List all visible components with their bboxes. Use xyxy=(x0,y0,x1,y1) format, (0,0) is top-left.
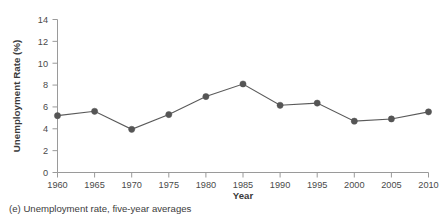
data-point-markers xyxy=(54,81,431,133)
x-axis-ticks xyxy=(58,173,429,178)
x-axis-title: Year xyxy=(233,190,254,201)
y-tick-label: 14 xyxy=(38,15,48,25)
y-axis-tick-labels: 02468101214 xyxy=(38,15,48,178)
y-tick-label: 0 xyxy=(43,168,48,178)
y-axis-ticks xyxy=(53,20,58,173)
data-point-marker xyxy=(92,108,98,114)
data-point-marker xyxy=(277,102,283,108)
data-point-marker xyxy=(54,113,60,119)
figure-unemployment-rate: 02468101214 1960196519701975198019851990… xyxy=(0,0,447,224)
x-tick-label: 1965 xyxy=(84,180,104,190)
y-tick-label: 4 xyxy=(43,124,48,134)
x-tick-label: 2010 xyxy=(418,180,438,190)
data-point-marker xyxy=(314,100,320,106)
y-axis-title: Unemployment Rate (%) xyxy=(11,40,22,153)
y-tick-label: 6 xyxy=(43,102,48,112)
x-tick-label: 1985 xyxy=(233,180,253,190)
x-tick-label: 1970 xyxy=(121,180,141,190)
y-tick-label: 10 xyxy=(38,59,48,69)
data-point-marker xyxy=(166,111,172,117)
y-tick-label: 8 xyxy=(43,80,48,90)
data-series-line xyxy=(58,84,429,129)
data-point-marker xyxy=(388,116,394,122)
x-tick-label: 1980 xyxy=(196,180,216,190)
x-tick-label: 1990 xyxy=(270,180,290,190)
y-tick-label: 2 xyxy=(43,146,48,156)
data-point-marker xyxy=(129,126,135,132)
y-axis: 02468101214 xyxy=(38,15,58,178)
x-tick-label: 1975 xyxy=(159,180,179,190)
line-chart-unemployment-rate: 02468101214 1960196519701975198019851990… xyxy=(0,0,447,224)
x-tick-label: 2005 xyxy=(381,180,401,190)
x-axis: 1960196519701975198019851990199520002005… xyxy=(47,173,438,191)
x-tick-label: 1960 xyxy=(47,180,67,190)
data-point-marker xyxy=(425,109,431,115)
data-point-marker xyxy=(351,118,357,124)
x-tick-label: 1995 xyxy=(307,180,327,190)
data-point-marker xyxy=(240,81,246,87)
data-point-marker xyxy=(203,93,209,99)
figure-caption: (e) Unemployment rate, five-year average… xyxy=(9,203,191,214)
y-tick-label: 12 xyxy=(38,37,48,47)
x-axis-tick-labels: 1960196519701975198019851990199520002005… xyxy=(47,180,438,190)
x-tick-label: 2000 xyxy=(344,180,364,190)
